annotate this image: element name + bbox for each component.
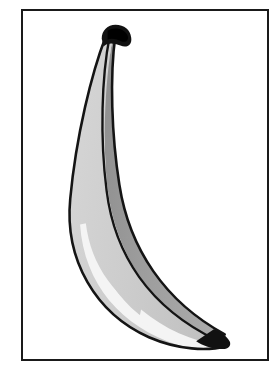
picture-border	[21, 9, 269, 361]
image-canvas: Banana clip art illustration banana gray…	[0, 0, 280, 380]
banana-illustration	[23, 11, 267, 359]
